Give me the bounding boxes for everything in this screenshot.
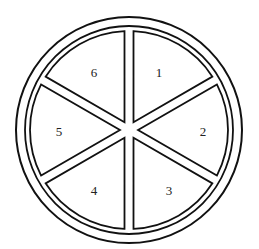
sector-label-5: 5 <box>56 124 63 139</box>
sector-label-1: 1 <box>156 65 163 80</box>
sector-wheel-diagram: 1 2 3 4 5 6 <box>0 0 259 249</box>
sector-label-2: 2 <box>200 124 207 139</box>
sector-label-3: 3 <box>166 183 173 198</box>
sector-label-4: 4 <box>91 183 98 198</box>
sector-label-6: 6 <box>91 65 98 80</box>
